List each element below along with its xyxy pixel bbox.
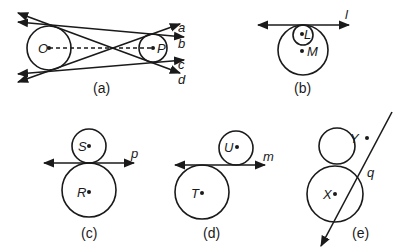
label-line-d: d [178,72,186,87]
label-o: O [38,41,48,56]
caption-c: (c) [81,225,97,241]
label-s: S [78,139,87,154]
label-t: T [191,186,200,201]
label-l-circle: L [304,27,311,42]
label-line-q: q [367,165,375,180]
line-b [18,22,184,37]
figure-c: S R p (c) [44,129,138,241]
label-line-c: c [178,57,185,72]
label-m: M [307,44,318,59]
center-x [333,192,337,196]
caption-e: (e) [352,225,369,241]
label-y: Y [350,131,360,146]
center-y [365,136,369,140]
label-u: U [224,140,234,155]
line-c [18,60,184,74]
center-u [235,145,239,149]
center-m [300,49,304,53]
figure-b: L M l (b) [258,7,349,96]
label-line-b: b [178,36,185,51]
tangent-circles-diagram: O P a b c d (a) L M l (b) S R p (c) [0,0,413,251]
caption-d: (d) [203,225,220,241]
center-t [200,191,204,195]
caption-a: (a) [93,80,110,96]
center-s [87,144,91,148]
figure-a: O P a b c d (a) [18,13,186,96]
label-x: X [322,187,333,202]
label-p: P [157,41,166,56]
label-line-m: m [263,149,274,164]
figure-e: Y X q (e) [307,112,392,246]
caption-b: (b) [294,80,311,96]
label-r: R [77,185,86,200]
figure-d: U T m (d) [175,131,274,241]
center-p [151,46,155,50]
label-line-a: a [178,20,185,35]
label-line-p: p [130,146,138,161]
center-r [87,190,91,194]
label-line-l: l [345,7,349,22]
